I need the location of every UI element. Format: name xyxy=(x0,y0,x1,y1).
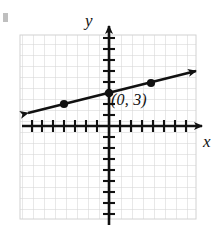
point-coordinate-label: (0, 3) xyxy=(111,92,147,108)
data-point xyxy=(60,100,68,108)
graph-canvas xyxy=(0,0,223,230)
coordinate-plane-figure: y x (0, 3) xyxy=(0,0,223,230)
y-axis-label: y xyxy=(85,12,93,29)
x-axis-label: x xyxy=(203,133,211,150)
data-point xyxy=(147,79,155,87)
